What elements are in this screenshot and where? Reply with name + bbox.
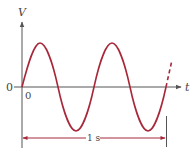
sine-curve-continuation	[166, 60, 172, 87]
origin-label-x: 0	[25, 90, 31, 101]
origin-label-y: 0	[6, 81, 13, 94]
y-axis-label: V	[18, 6, 27, 19]
x-axis-label: t	[185, 81, 190, 94]
sine-wave-diagram: V t 0 0 1 s	[0, 0, 195, 159]
interval-label: 1 s	[87, 133, 101, 143]
